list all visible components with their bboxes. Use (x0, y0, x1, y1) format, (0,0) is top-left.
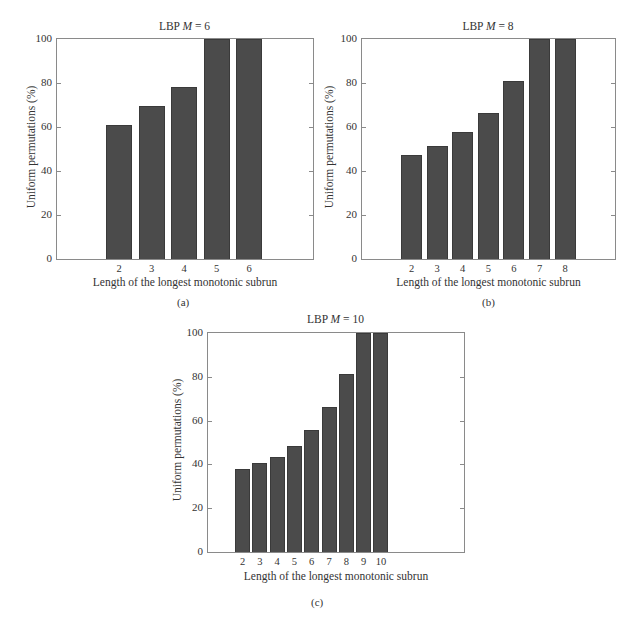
bar (252, 463, 267, 552)
title-prefix: LBP (159, 20, 183, 32)
y-tick-mark (362, 171, 366, 172)
title-variable: M (486, 20, 496, 32)
x-tick-label: 3 (142, 263, 162, 274)
x-tick-label: 5 (478, 263, 498, 274)
bar (304, 430, 319, 552)
y-tick-mark (208, 508, 212, 509)
y-tick-mark-right (611, 171, 615, 172)
bar (356, 333, 371, 552)
x-tick-label: 10 (371, 556, 391, 567)
title-variable: M (182, 20, 192, 32)
bar (427, 146, 448, 259)
y-axis-label: Uniform permutations (%) (171, 365, 183, 515)
bar (339, 374, 354, 552)
x-tick-label: 4 (174, 263, 194, 274)
y-tick-label: 100 (179, 327, 203, 338)
y-tick-mark (208, 464, 212, 465)
y-axis-label: Uniform permutations (%) (323, 72, 335, 222)
y-tick-mark-right (460, 377, 464, 378)
y-tick-label: 20 (28, 209, 52, 220)
y-tick-label: 20 (179, 502, 203, 513)
y-tick-label: 20 (333, 209, 357, 220)
y-tick-mark (57, 171, 61, 172)
y-tick-mark (208, 421, 212, 422)
chart-title: LBP M = 6 (56, 20, 313, 32)
bar (401, 155, 422, 259)
y-tick-mark-right (611, 215, 615, 216)
y-tick-label: 100 (28, 33, 52, 44)
title-prefix: LBP (462, 20, 486, 32)
bar (529, 39, 550, 259)
bar (287, 446, 302, 552)
x-axis-label: Length of the longest monotonic subrun (56, 276, 314, 288)
x-axis-label: Length of the longest monotonic subrun (361, 276, 616, 288)
y-tick-mark (362, 215, 366, 216)
y-tick-mark (57, 83, 61, 84)
y-tick-label: 40 (179, 458, 203, 469)
x-axis-label: Length of the longest monotonic subrun (207, 570, 465, 582)
panel-caption: (c) (311, 596, 323, 608)
bar (270, 457, 285, 552)
y-tick-mark-right (309, 215, 313, 216)
y-tick-label: 80 (28, 77, 52, 88)
panel-caption: (b) (482, 296, 495, 308)
x-tick-label: 5 (207, 263, 227, 274)
bar (373, 333, 388, 552)
y-tick-mark-right (460, 464, 464, 465)
y-tick-label: 40 (28, 165, 52, 176)
y-tick-mark-right (309, 171, 313, 172)
y-tick-mark-right (460, 508, 464, 509)
y-tick-label: 60 (333, 121, 357, 132)
title-prefix: LBP (307, 313, 331, 325)
x-tick-label: 4 (453, 263, 473, 274)
chart-title: LBP M = 8 (361, 20, 615, 32)
panel-caption: (a) (177, 296, 189, 308)
bar (452, 132, 473, 259)
x-tick-label: 6 (504, 263, 524, 274)
bar (204, 39, 230, 259)
y-tick-mark-right (611, 83, 615, 84)
y-tick-mark-right (309, 127, 313, 128)
bar (235, 469, 250, 552)
y-tick-mark (57, 215, 61, 216)
y-tick-mark (57, 127, 61, 128)
x-tick-label: 8 (555, 263, 575, 274)
y-tick-mark (208, 377, 212, 378)
bar (236, 39, 262, 259)
y-tick-label: 40 (333, 165, 357, 176)
bar (478, 113, 499, 259)
y-tick-label: 0 (333, 253, 357, 264)
bar (139, 106, 165, 259)
y-tick-mark-right (611, 127, 615, 128)
title-variable: M (331, 313, 341, 325)
x-tick-label: 6 (239, 263, 259, 274)
bar (106, 125, 132, 259)
y-tick-mark-right (460, 421, 464, 422)
title-suffix: = 10 (340, 313, 364, 325)
y-tick-label: 60 (28, 121, 52, 132)
chart-title: LBP M = 10 (207, 313, 464, 325)
x-tick-label: 7 (530, 263, 550, 274)
y-tick-mark-right (309, 83, 313, 84)
y-tick-label: 0 (179, 546, 203, 557)
y-tick-mark (362, 127, 366, 128)
y-tick-label: 0 (28, 253, 52, 264)
bar (555, 39, 576, 259)
x-tick-label: 2 (402, 263, 422, 274)
bar (171, 87, 197, 259)
bar (503, 81, 524, 259)
y-tick-label: 80 (333, 77, 357, 88)
title-suffix: = 6 (192, 20, 210, 32)
y-tick-label: 80 (179, 371, 203, 382)
y-axis-label: Uniform permutations (%) (25, 72, 37, 222)
x-tick-label: 2 (109, 263, 129, 274)
title-suffix: = 8 (496, 20, 514, 32)
x-tick-label: 3 (427, 263, 447, 274)
bar (322, 407, 337, 552)
y-tick-label: 100 (333, 33, 357, 44)
y-tick-mark (362, 83, 366, 84)
y-tick-label: 60 (179, 415, 203, 426)
